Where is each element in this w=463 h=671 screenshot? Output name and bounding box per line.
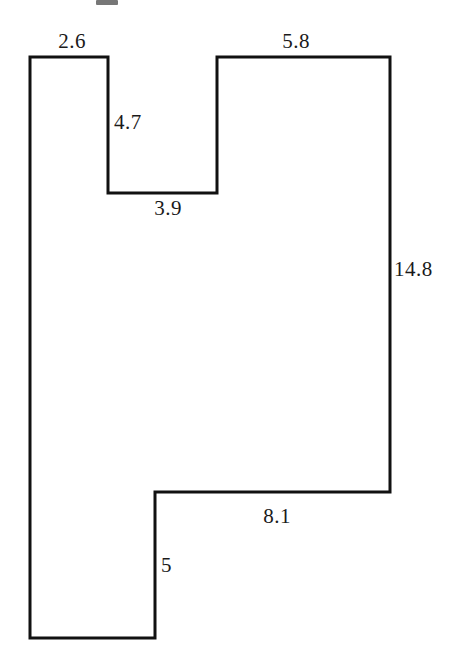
dimension-label-top-right-width: 5.8 [282, 31, 310, 52]
composite-shape-outline [30, 57, 390, 638]
dimension-label-right-height: 14.8 [394, 259, 433, 280]
composite-shape-svg [0, 0, 463, 671]
dimension-label-lower-width: 8.1 [263, 506, 291, 527]
dimension-label-top-left-width: 2.6 [58, 31, 86, 52]
dimension-label-notch-width: 3.9 [154, 198, 182, 219]
dimension-label-lower-left-height: 5 [161, 555, 172, 576]
figure-canvas: 2.6 5.8 4.7 3.9 14.8 8.1 5 [0, 0, 463, 671]
dimension-label-notch-left-depth: 4.7 [114, 112, 142, 133]
